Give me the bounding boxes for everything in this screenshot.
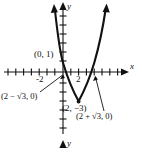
y-axis-label-bottom: y [67, 139, 71, 148]
label-root-left: (2 − √3, 0) [1, 92, 37, 101]
graph-canvas [0, 0, 142, 152]
x-axis-label: x [130, 62, 134, 71]
label-y-intercept: (0, 1) [34, 50, 54, 59]
parabola-right-arrowhead [103, 4, 110, 13]
y-axis-arrowhead [59, 2, 66, 10]
graph-figure: (0, 1) -2 2 (2 − √3, 0) (2, −3) (2 + √3,… [0, 0, 142, 152]
x-tick-label-negative-2: -2 [36, 75, 44, 84]
leader-arrowhead-root-right [93, 76, 98, 81]
leader-line-root-right [96, 78, 104, 112]
label-root-right: (2 + √3, 0) [76, 112, 112, 121]
x-axis-arrowhead [121, 68, 129, 75]
y-axis-label: y [67, 2, 71, 11]
y-axis-bottom-arrowhead [59, 140, 66, 148]
parabola-left-arrowhead [51, 4, 58, 13]
x-tick-label-2: 2 [76, 75, 81, 84]
